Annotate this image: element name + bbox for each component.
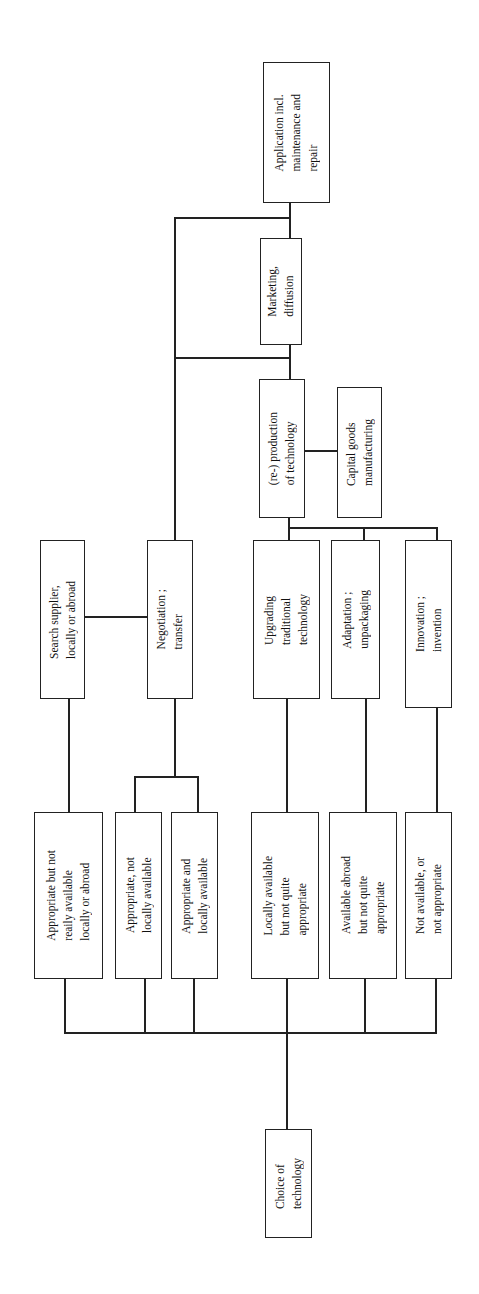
node-search-supplier-label: Search supplier, locally or abroad: [46, 581, 80, 659]
node-choice: Choice of technology: [265, 1129, 312, 1238]
node-upgrading-label: Upgrading traditional technology: [261, 594, 312, 645]
connector-choice-spine: [286, 979, 288, 1129]
node-application-label: Application incl. maintenance and repair: [271, 94, 322, 172]
connector-adaptation-up: [363, 527, 365, 540]
node-opt-local-not-appropriate-label: Locally available but not quite appropri…: [260, 856, 311, 936]
node-adaptation-label: Adaptation ; unpackaging: [339, 590, 373, 649]
node-innovation: Innovation ; invention: [405, 540, 452, 708]
connector-opt3-down: [193, 979, 195, 1033]
node-opt-abroad-not-appropriate: Available abroad but not quite appropria…: [329, 812, 397, 979]
connector-opt1-down: [64, 979, 66, 1033]
node-opt-appropriate-local: Appropriate and locally available: [171, 812, 218, 979]
node-opt-appropriate-local-label: Appropriate and locally available: [178, 858, 212, 934]
connector-upgrading-down: [286, 699, 288, 812]
connector-search-down: [68, 699, 70, 812]
connector-innovation-up: [436, 527, 438, 540]
node-opt-appropriate-not-readily: Appropriate but not reaily available loc…: [34, 812, 103, 979]
connector-innovation-down: [436, 708, 438, 812]
node-negotiation-label: Negotiation ; transfer: [153, 589, 187, 649]
node-reproduction-label: (re-) production of technology: [265, 412, 299, 485]
connector-opt6-down: [435, 979, 437, 1033]
node-marketing-label: Marketing, diffusion: [264, 266, 298, 317]
node-opt-not-available-label: Not available, or not appropriate: [412, 857, 446, 934]
connector-opt2-down: [144, 979, 146, 1033]
node-opt-abroad-not-appropriate-label: Available abroad but not quite appropria…: [338, 856, 389, 934]
connector-bracket-right: [197, 776, 199, 812]
node-negotiation: Negotiation ; transfer: [147, 540, 193, 699]
connector-bracket-left: [134, 776, 136, 812]
node-opt-appropriate-not-local-label: Appropriate, not locally available: [122, 857, 156, 933]
connector-opt5-down: [364, 979, 366, 1033]
node-adaptation: Adaptation ; unpackaging: [331, 540, 380, 699]
node-reproduction: (re-) production of technology: [259, 379, 305, 518]
node-capital-goods-label: Capital goods manufacturing: [343, 419, 377, 486]
node-upgrading: Upgrading traditional technology: [253, 540, 320, 699]
connector-negotiation-marketing: [175, 357, 291, 359]
connector-adaptation-down: [365, 699, 367, 812]
node-innovation-label: Innovation ; invention: [412, 596, 446, 652]
connector-bottom-bus: [64, 1032, 437, 1034]
connector-production-capital: [304, 450, 337, 452]
node-marketing: Marketing, diffusion: [260, 238, 302, 345]
connector-negotiation-bracket: [134, 776, 199, 778]
connector-top-bus: [175, 217, 291, 219]
connector-left-spine: [174, 217, 176, 540]
node-choice-label: Choice of technology: [272, 1158, 306, 1209]
connector-search-negotiation: [84, 616, 147, 618]
node-opt-local-not-appropriate: Locally available but not quite appropri…: [251, 812, 319, 979]
node-capital-goods: Capital goods manufacturing: [337, 387, 382, 518]
node-opt-appropriate-not-readily-label: Appropriate but not reaily available loc…: [43, 850, 94, 941]
node-opt-appropriate-not-local: Appropriate, not locally available: [115, 812, 162, 979]
node-application: Application incl. maintenance and repair: [263, 62, 330, 203]
node-search-supplier: Search supplier, locally or abroad: [40, 540, 85, 699]
connector-negotiation-down: [174, 699, 176, 777]
connector-marketing-production: [289, 345, 291, 379]
connector-production-down: [288, 518, 290, 540]
connector-application-marketing: [289, 203, 291, 238]
node-opt-not-available: Not available, or not appropriate: [405, 812, 452, 979]
